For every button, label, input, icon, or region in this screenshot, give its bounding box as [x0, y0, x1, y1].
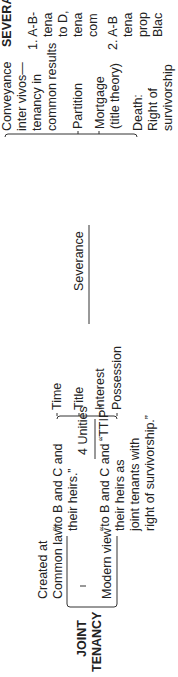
side-item2-line4: Blac	[151, 13, 166, 37]
side-item1-line3: to D,	[56, 11, 71, 37]
root-label-line1: JOINT	[75, 620, 90, 657]
unities-mnemonic: “TTIP”	[97, 406, 112, 441]
common-law-example-line1: “to B and C and	[51, 443, 66, 531]
unity-interest: Interest	[93, 368, 108, 410]
modern-view-example-line4: right of survivorship.”	[143, 415, 158, 531]
common-law-label-line2: Common law	[51, 526, 66, 599]
severance-death-line3: survivorship	[161, 64, 176, 131]
modern-view-example-line2: their heirs as	[113, 459, 128, 531]
joint-tenancy-diagram: JOINT TENANCY Created at Common law Mode…	[0, 0, 178, 677]
modern-view-label: Modern view	[100, 528, 115, 599]
severance-mortgage-line1: Mortgage	[93, 76, 108, 129]
modern-view-example-line3: joint tenants with	[128, 438, 143, 531]
modern-view-example-line1: “to B and C and	[98, 443, 113, 531]
severance-mortgage-line2: (title theory)	[108, 63, 123, 129]
unity-possession: Possession	[110, 346, 125, 410]
severance-death-line1: Death:	[131, 94, 146, 131]
side-item2-line3: prop	[136, 12, 151, 37]
side-item2-line2: tena	[121, 13, 136, 37]
side-item1-line1: 1. A-B-	[26, 12, 41, 50]
side-item2-line1: 2. A-B	[106, 16, 121, 50]
severance-partition: Partition	[71, 83, 86, 129]
unities-label: 4 Unities	[76, 406, 91, 455]
common-law-example-line2: their heirs.”	[66, 468, 81, 531]
severance-conveyance-line2: inter vivos—	[15, 62, 30, 131]
severance-conveyance-line3: tenancy in	[30, 74, 45, 131]
common-law-label-line1: Created at	[36, 541, 51, 599]
root-label-line2: TENANCY	[90, 612, 105, 672]
severance-death-line2: Right of	[146, 88, 161, 131]
severance-conveyance-line1: Conveyance	[0, 62, 15, 132]
side-item1-line5: com	[86, 13, 101, 37]
side-item1-line2: tena	[41, 13, 56, 37]
severance-label: Severance	[72, 231, 87, 291]
side-item1-line4: tena	[71, 13, 86, 37]
unity-title: Title	[72, 387, 87, 410]
side-panel-heading: SEVERA	[0, 0, 15, 47]
severance-conveyance-line4: common results	[45, 43, 60, 131]
unity-time: Time	[50, 383, 65, 410]
